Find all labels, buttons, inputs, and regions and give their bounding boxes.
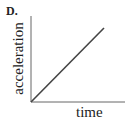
x-axis-label: time [76,104,103,121]
y-axis-label: acceleration [10,19,27,99]
data-line [31,28,104,102]
